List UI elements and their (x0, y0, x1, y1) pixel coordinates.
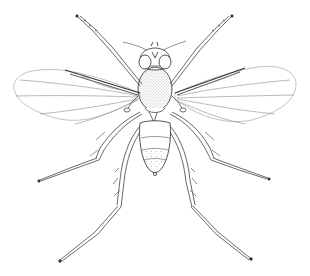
middle-leg-right (170, 112, 270, 180)
thorax (138, 67, 172, 122)
middle-leg-left (38, 112, 142, 182)
hind-leg-right (167, 126, 252, 260)
left-wing (14, 70, 140, 124)
right-eye (159, 55, 171, 69)
right-wing (175, 66, 296, 124)
abdomen (139, 121, 170, 176)
insect-illustration: Scientific line drawing of a winged fly,… (0, 0, 310, 276)
fly-drawing (0, 0, 310, 276)
left-eye (139, 55, 151, 69)
